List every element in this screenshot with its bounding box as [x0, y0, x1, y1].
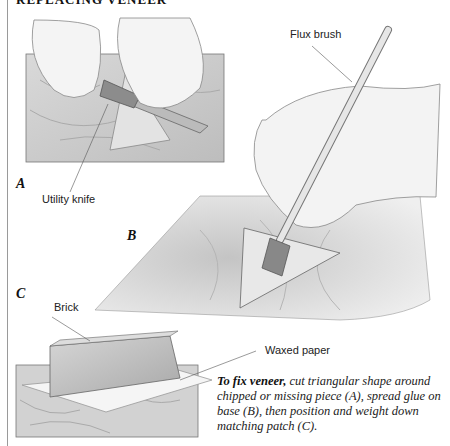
panel-a-drawing: [26, 18, 224, 192]
panel-label-b: B: [127, 228, 136, 244]
callout-brick: Brick: [54, 301, 78, 313]
callout-flux-brush: Flux brush: [290, 28, 341, 40]
panel-label-a: A: [16, 176, 25, 192]
panel-label-c: C: [16, 286, 25, 302]
callout-utility-knife: Utility knife: [42, 193, 95, 205]
figure-caption: To fix veneer, cut triangular shape arou…: [217, 374, 447, 434]
caption-lead: To fix veneer,: [217, 374, 286, 388]
callout-waxed-paper: Waxed paper: [265, 344, 330, 356]
